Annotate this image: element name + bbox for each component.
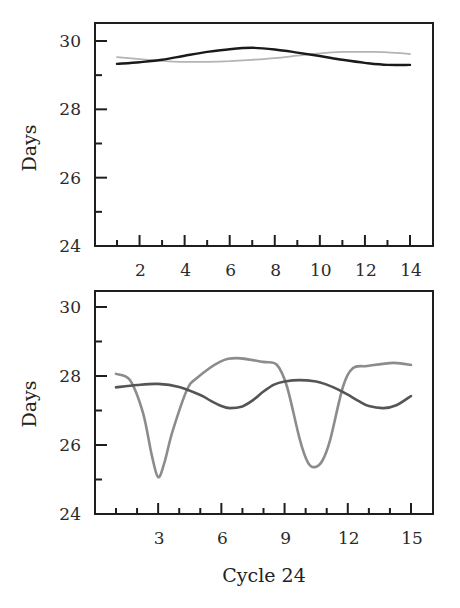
y-tick-label: 26: [59, 168, 81, 188]
x-tick-label: 10: [310, 260, 332, 280]
x-tick-label: 6: [217, 528, 228, 548]
y-tick-label: 30: [59, 297, 81, 317]
line-series-dark: [116, 380, 411, 408]
x-tick-label: 12: [338, 528, 360, 548]
y-tick-label: 28: [59, 366, 81, 386]
x-tick-label: 3: [154, 528, 165, 548]
y-tick-label: 24: [59, 236, 81, 256]
y-axis-title: Days: [18, 380, 40, 427]
x-tick-label: 12: [355, 260, 377, 280]
x-tick-label: 4: [180, 260, 191, 280]
plot-frame: [95, 291, 433, 514]
x-tick-label: 2: [135, 260, 146, 280]
y-axis-title: Days: [18, 124, 40, 171]
y-tick-label: 30: [59, 31, 81, 51]
x-tick-label: 8: [270, 260, 281, 280]
x-tick-label: 6: [225, 260, 236, 280]
top-chart-panel: 242628302468101214Days: [18, 23, 433, 280]
x-tick-label: 14: [400, 260, 422, 280]
x-tick-label: 9: [280, 528, 291, 548]
line-series-dark: [117, 48, 410, 65]
line-series-light: [116, 358, 411, 477]
y-tick-label: 24: [59, 504, 81, 524]
plot-frame: [95, 23, 433, 246]
figure: 242628302468101214Days 242628303691215Da…: [0, 0, 460, 608]
bottom-chart-panel: 242628303691215DaysCycle 24: [18, 291, 433, 586]
y-tick-label: 28: [59, 99, 81, 119]
y-tick-label: 26: [59, 435, 81, 455]
x-tick-label: 15: [401, 528, 423, 548]
x-axis-title: Cycle 24: [222, 564, 305, 586]
